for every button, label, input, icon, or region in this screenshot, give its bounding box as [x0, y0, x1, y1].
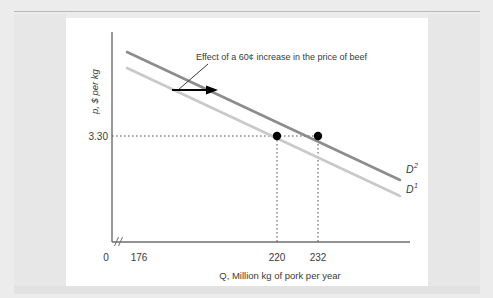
reference-lines	[112, 136, 322, 242]
page-top-rule	[14, 11, 480, 12]
x-tick-label-176: 176	[131, 252, 148, 263]
curve-label-d2-letter: D	[406, 163, 414, 175]
annotation-text: Effect of a 60¢ increase in the price of…	[196, 52, 367, 62]
page-right-margin-band	[428, 14, 480, 286]
page-root: Effect of a 60¢ increase in the price of…	[0, 0, 493, 298]
demand-curve-d2	[127, 52, 400, 180]
curve-labels: D 2 D 1	[406, 162, 418, 195]
marker-point-220	[273, 132, 281, 140]
chart-axes	[112, 32, 410, 246]
x-tick-label-232: 232	[310, 252, 327, 263]
page-left-margin-band	[14, 14, 66, 286]
y-axis-title: p, $ per kg	[89, 68, 100, 115]
demand-curve-d1	[127, 68, 400, 196]
page-bottom-margin-band	[14, 286, 480, 294]
curve-label-d2-superscript: 2	[413, 162, 418, 169]
demand-shift-chart: Effect of a 60¢ increase in the price of…	[66, 18, 428, 286]
y-tick-label-330: 3.30	[89, 131, 109, 142]
curve-label-d1-letter: D	[406, 183, 414, 195]
x-tick-label-0: 0	[103, 252, 109, 263]
x-tick-label-220: 220	[269, 252, 286, 263]
demand-curves	[127, 52, 400, 196]
x-axis-title: Q, Million kg of pork per year	[219, 270, 340, 281]
marker-point-232	[314, 132, 322, 140]
curve-label-d1-superscript: 1	[414, 182, 418, 189]
x-axis-labels: 0 176 220 232 Q, Million kg of pork per …	[103, 252, 341, 281]
y-axis-labels: 3.30 p, $ per kg	[89, 68, 109, 142]
